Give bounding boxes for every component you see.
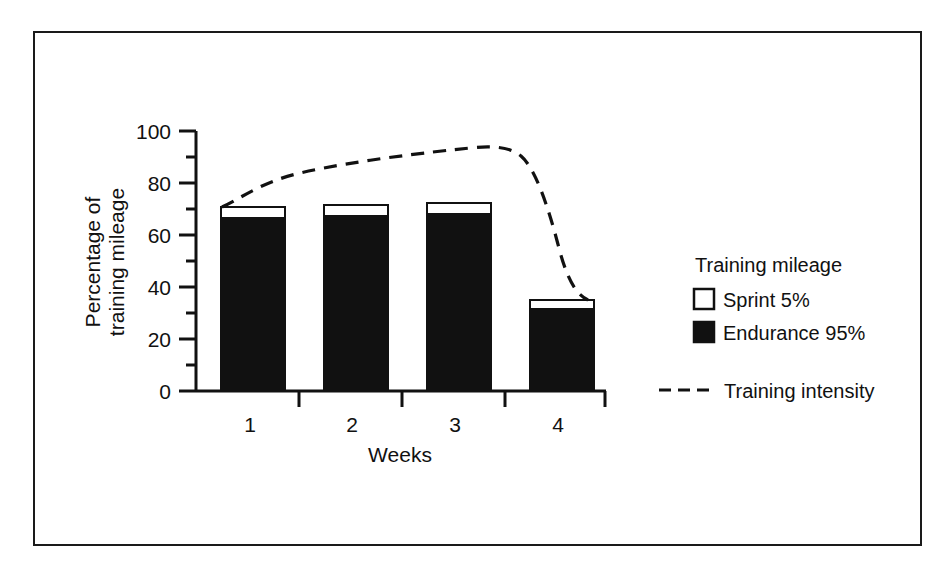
legend-label-sprint: Sprint 5% (723, 289, 810, 311)
x-axis-title: Weeks (368, 443, 432, 466)
figure-root: 0 20 40 60 80 100 Percentage of training… (0, 0, 950, 581)
bar-segment-sprint (427, 203, 491, 214)
bar-week-1[interactable] (221, 207, 285, 391)
bar-segment-endurance (221, 218, 285, 391)
legend: Training mileage Sprint 5% Endurance 95%… (659, 254, 874, 402)
y-tick-label: 40 (148, 276, 171, 299)
bar-week-4[interactable] (530, 300, 594, 391)
legend-item-sprint[interactable]: Sprint 5% (694, 289, 810, 311)
y-tick-label: 0 (159, 380, 171, 403)
x-axis: 1 2 3 4 Weeks (196, 391, 606, 466)
bar-segment-sprint (530, 300, 594, 309)
x-tick-label: 2 (346, 413, 358, 436)
legend-item-endurance[interactable]: Endurance 95% (694, 322, 866, 344)
legend-item-training-intensity[interactable]: Training intensity (659, 380, 874, 402)
legend-swatch-endurance (694, 322, 714, 342)
y-axis: 0 20 40 60 80 100 (136, 120, 196, 403)
legend-label-training-intensity: Training intensity (724, 380, 874, 402)
y-tick-label: 60 (148, 224, 171, 247)
legend-label-endurance: Endurance 95% (723, 322, 866, 344)
y-axis-title-line1: Percentage of (81, 196, 104, 327)
bar-segment-sprint (324, 205, 388, 216)
bar-segment-endurance (427, 214, 491, 391)
y-axis-title-line2: training mileage (105, 188, 128, 336)
x-tick-label: 3 (449, 413, 461, 436)
training-mileage-chart: 0 20 40 60 80 100 Percentage of training… (0, 0, 950, 581)
y-tick-label: 80 (148, 172, 171, 195)
x-tick-label: 4 (552, 413, 564, 436)
bar-segment-sprint (221, 207, 285, 218)
bar-segment-endurance (324, 216, 388, 391)
bars-group (221, 203, 594, 391)
y-tick-label: 20 (148, 328, 171, 351)
y-axis-title: Percentage of training mileage (81, 188, 128, 336)
bar-segment-endurance (530, 309, 594, 391)
legend-title: Training mileage (695, 254, 842, 276)
bar-week-3[interactable] (427, 203, 491, 391)
legend-swatch-sprint (694, 289, 714, 309)
bar-week-2[interactable] (324, 205, 388, 391)
x-tick-label: 1 (244, 413, 256, 436)
y-tick-label: 100 (136, 120, 171, 143)
